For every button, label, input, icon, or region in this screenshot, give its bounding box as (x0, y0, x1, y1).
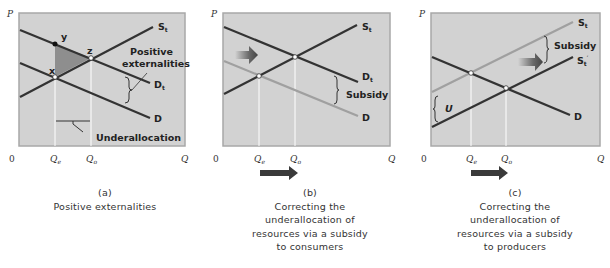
caption-letter: (b) (225, 186, 395, 200)
new-equilibrium-marker (504, 86, 509, 91)
caption-letter: (c) (430, 186, 600, 200)
y-axis-label-b: P (210, 9, 218, 19)
caption-line: resources via a subsidy (225, 227, 395, 241)
caption-b: (b) Correcting the underallocation of re… (225, 186, 395, 254)
d-label-a: D (154, 113, 162, 124)
d-label-c: D (574, 111, 582, 122)
x-axis-label-c: Q (597, 154, 605, 164)
caption-a: (a) Positive externalities (30, 186, 180, 213)
qe-label-c: Qe (466, 154, 477, 165)
caption-line: Correcting the (225, 200, 395, 214)
initial-equilibrium-marker (257, 74, 262, 79)
y-axis-label-c: P (418, 9, 426, 19)
origin-label-a: 0 (9, 154, 15, 164)
positive-label: Positive (130, 46, 173, 57)
qo-label-b: Qo (290, 154, 301, 165)
initial-equilibrium-marker (469, 71, 474, 76)
quantity-increase-arrow-icon (260, 166, 298, 180)
caption-c: (c) Correcting the underallocation of re… (430, 186, 600, 254)
underallocation-label: Underallocation (96, 132, 181, 143)
caption-letter: (a) (30, 186, 180, 200)
x-axis-label-a: Q (181, 154, 189, 164)
origin-label-b: 0 (213, 154, 219, 164)
qo-label-c: Qo (501, 154, 512, 165)
externalities-label: externalities (122, 58, 190, 69)
point-y-label: y (61, 31, 68, 42)
u-label: U (445, 103, 453, 114)
d-label-b: D (362, 112, 370, 123)
y-axis-label-a: P (6, 9, 14, 19)
point-z-label: z (87, 45, 93, 56)
origin-label-c: 0 (421, 154, 427, 164)
caption-line: Positive externalities (30, 200, 180, 214)
point-y-marker (53, 42, 58, 47)
point-x-label: x (49, 65, 55, 76)
caption-line: to producers (430, 240, 600, 254)
caption-line: to consumers (225, 240, 395, 254)
new-equilibrium-marker (293, 55, 298, 60)
qe-label-a: Qe (50, 154, 61, 165)
subsidy-label-b: Subsidy (346, 89, 389, 100)
quantity-increase-arrow-icon (471, 166, 508, 180)
subsidy-label-c: Subsidy (554, 40, 597, 51)
qo-label-a: Qo (86, 154, 97, 165)
caption-line: Correcting the (430, 200, 600, 214)
caption-line: resources via a subsidy (430, 227, 600, 241)
x-axis-label-b: Q (388, 154, 396, 164)
qe-label-b: Qe (254, 154, 265, 165)
panel-c-graph (431, 13, 600, 180)
point-z-marker (89, 56, 94, 61)
caption-line: underallocation of (430, 213, 600, 227)
caption-line: underallocation of (225, 213, 395, 227)
